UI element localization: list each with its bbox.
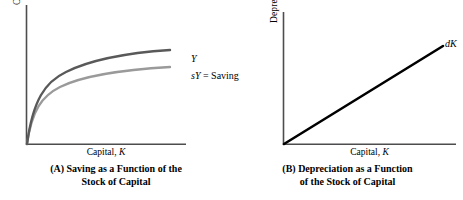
depreciation-line-label: dK [445,38,457,49]
panel-a-x-axis-label: Capital, K [26,147,186,157]
depreciation-line [284,46,443,144]
panel-b-x-axis-label-symbol: K [382,147,388,157]
panel-b-depreciation-chart: Depreciation Capital, K dK (B) Depreciat… [232,0,463,200]
panel-b-x-axis-label-text: Capital, [350,147,382,157]
panel-b-x-axis-label: Capital, K [283,147,456,157]
panel-a-saving-chart: Output and saving Capital, K Y sY = Savi… [0,0,232,200]
panel-b-y-axis-label-text: Depreciation [269,0,279,23]
panel-b-caption: (B) Depreciation as a Function of the St… [232,163,463,188]
saving-curve [27,67,170,144]
economics-figure: Output and saving Capital, K Y sY = Savi… [0,0,463,200]
output-curve-label: Y [191,53,197,64]
panel-b-caption-line-1: (B) Depreciation as a Function [232,163,463,176]
panel-b-caption-line-2: of the Stock of Capital [232,176,463,189]
panel-a-caption: (A) Saving as a Function of the Stock of… [0,163,232,188]
output-curve [27,50,170,144]
panel-a-x-axis-label-text: Capital, [87,147,119,157]
panel-a-y-axis-label-text: Output and saving [12,0,22,5]
panel-a-caption-line-1: (A) Saving as a Function of the [0,163,232,176]
panel-b-plot-area [232,0,463,160]
output-curve-label-symbol: Y [191,53,197,64]
depreciation-line-label-symbol: dK [445,38,457,49]
panel-a-caption-line-2: Stock of Capital [0,176,232,189]
panel-a-x-axis-label-symbol: K [119,147,125,157]
